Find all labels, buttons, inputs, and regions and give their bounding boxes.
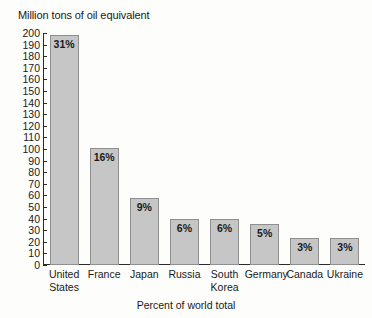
- x-axis-category-label-line: States: [44, 281, 84, 294]
- y-axis-tick-label: 20: [28, 236, 40, 247]
- bar: 31%: [50, 35, 79, 265]
- y-axis-tick-label: 170: [22, 62, 40, 73]
- y-axis-tick-label: 60: [28, 190, 40, 201]
- x-axis-category-label-line: Japan: [124, 268, 164, 281]
- x-axis-category-label-line: South: [205, 268, 245, 281]
- x-axis-category-label: Ukraine: [325, 268, 365, 281]
- y-axis-tick-label: 70: [28, 178, 40, 189]
- bar-value-label: 6%: [211, 222, 238, 234]
- x-axis-category-label: Japan: [124, 268, 164, 281]
- bar-value-label: 5%: [251, 227, 278, 239]
- bar: 6%: [170, 219, 199, 265]
- x-axis-category-label-line: France: [84, 268, 124, 281]
- bar-value-label: 31%: [51, 38, 78, 50]
- x-axis-category-label: Russia: [164, 268, 204, 281]
- y-axis-tick-label: 160: [22, 74, 40, 85]
- y-axis-tick-label: 130: [22, 109, 40, 120]
- y-axis-tick-labels: 2001901801701601501401301201101009080706…: [0, 33, 43, 265]
- bar: 9%: [130, 198, 159, 265]
- x-axis-category-label-line: United: [44, 268, 84, 281]
- x-axis-category-label: SouthKorea: [205, 268, 245, 293]
- bar-value-label: 9%: [131, 201, 158, 213]
- x-axis-category-label-line: Canada: [285, 268, 325, 281]
- y-axis-tick-label: 30: [28, 225, 40, 236]
- bar-value-label: 16%: [91, 151, 118, 163]
- y-axis-tick-label: 80: [28, 167, 40, 178]
- bar-series: 31%16%9%6%6%5%3%3%: [44, 33, 365, 265]
- y-axis-tick-label: 140: [22, 97, 40, 108]
- x-axis-category-labels: UnitedStatesFranceJapanRussiaSouthKoreaG…: [44, 268, 365, 298]
- y-axis-tick-mark: [43, 265, 47, 266]
- y-axis-tick-label: 90: [28, 155, 40, 166]
- x-axis-category-label-line: Korea: [205, 281, 245, 294]
- x-axis-category-label: France: [84, 268, 124, 281]
- bar: 5%: [250, 224, 279, 265]
- x-axis-title: Percent of world total: [0, 299, 372, 311]
- y-axis-tick-label: 190: [22, 39, 40, 50]
- x-axis-category-label: Canada: [285, 268, 325, 281]
- bar-value-label: 3%: [331, 241, 358, 253]
- x-axis-category-label: Germany: [245, 268, 285, 281]
- bar-value-label: 6%: [171, 222, 198, 234]
- x-axis-category-label-line: Germany: [245, 268, 285, 281]
- y-axis-tick-label: 120: [22, 120, 40, 131]
- y-axis-tick-label: 10: [28, 248, 40, 259]
- x-axis-category-label-line: Ukraine: [325, 268, 365, 281]
- y-axis-tick-label: 200: [22, 28, 40, 39]
- y-axis-tick-label: 150: [22, 86, 40, 97]
- bar-chart: Million tons of oil equivalent 200190180…: [0, 0, 372, 318]
- bar: 3%: [290, 238, 319, 265]
- y-axis-tick-label: 100: [22, 144, 40, 155]
- y-axis-tick-label: 40: [28, 213, 40, 224]
- bar: 16%: [90, 148, 119, 265]
- x-axis-category-label-line: Russia: [164, 268, 204, 281]
- y-axis-tick-label: 110: [23, 132, 40, 143]
- y-axis-tick-label: 180: [22, 51, 40, 62]
- x-axis-category-label: UnitedStates: [44, 268, 84, 293]
- bar: 6%: [210, 219, 239, 265]
- bar-value-label: 3%: [291, 241, 318, 253]
- y-axis-tick-label: 50: [28, 202, 40, 213]
- bar: 3%: [330, 238, 359, 265]
- y-axis-title: Million tons of oil equivalent: [18, 9, 150, 22]
- y-axis-tick-label: 0: [34, 260, 40, 271]
